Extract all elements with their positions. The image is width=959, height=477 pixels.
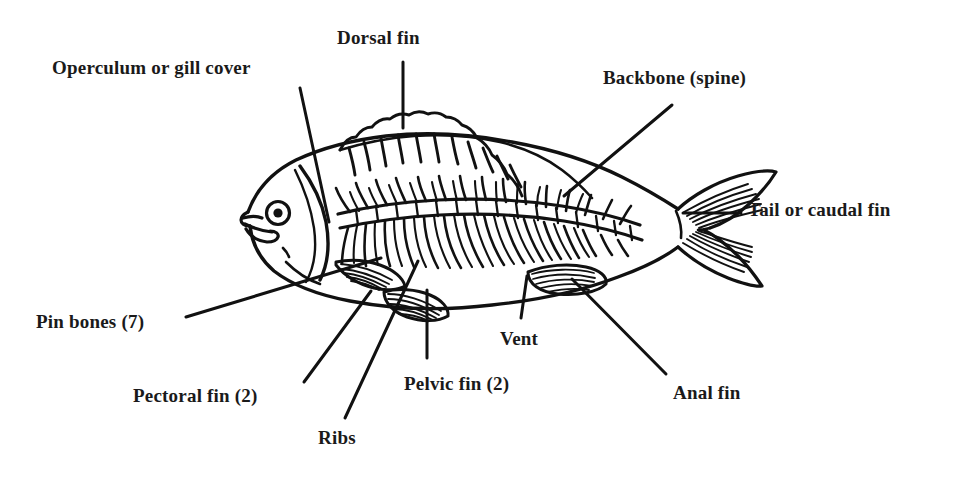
tail-caudal-fin <box>676 171 776 286</box>
leader-pectoral-fin <box>304 291 371 382</box>
fish-anatomy-diagram: Operculum or gill cover Dorsal fin Backb… <box>0 0 959 477</box>
leader-lines <box>186 62 741 418</box>
fish-head <box>241 166 328 284</box>
label-backbone: Backbone (spine) <box>603 68 746 88</box>
leader-vent <box>521 276 527 318</box>
label-operculum: Operculum or gill cover <box>52 58 251 78</box>
label-anal-fin: Anal fin <box>673 383 741 403</box>
ribs <box>342 215 628 268</box>
label-ribs: Ribs <box>318 428 356 448</box>
fish-eye <box>267 202 290 225</box>
label-tail-caudal-fin: Tail or caudal fin <box>748 200 890 220</box>
label-dorsal-fin: Dorsal fin <box>337 28 420 48</box>
label-pelvic-fin: Pelvic fin (2) <box>404 374 509 394</box>
leader-anal-fin <box>572 279 666 374</box>
anal-fin-rays <box>532 270 595 292</box>
label-pectoral-fin: Pectoral fin (2) <box>133 386 258 406</box>
label-pin-bones: Pin bones (7) <box>36 312 144 332</box>
leader-backbone <box>564 105 672 196</box>
label-vent: Vent <box>500 329 538 349</box>
leader-pin-bones <box>186 258 381 317</box>
